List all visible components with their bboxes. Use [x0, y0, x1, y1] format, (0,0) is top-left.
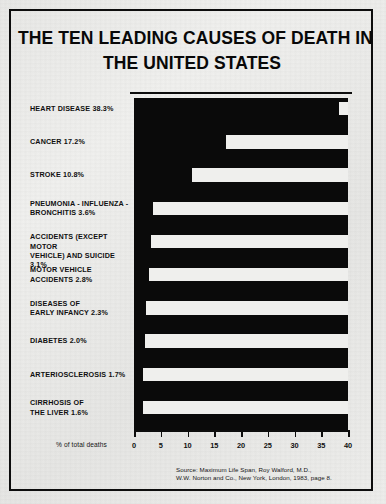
category-label-line: ARTERIOSCLEROSIS 1.7% — [30, 370, 130, 379]
category-label: DISEASES OFEARLY INFANCY 2.3% — [30, 299, 130, 318]
chart-page: THE TEN LEADING CAUSES OF DEATH IN THE U… — [0, 0, 386, 504]
x-axis-tick — [348, 430, 350, 437]
category-label-line: ACCIDENTS 2.8% — [30, 275, 130, 284]
x-axis-tick-label: 5 — [149, 441, 173, 450]
bar — [226, 135, 348, 148]
category-label: STROKE 10.8% — [30, 170, 130, 179]
bar — [145, 334, 348, 347]
category-label-line: STROKE 10.8% — [30, 170, 130, 179]
category-label-line: HEART DISEASE 38.3% — [30, 104, 130, 113]
source-line-2: W.W. Norton and Co., New York, London, 1… — [176, 474, 366, 482]
x-axis-tick-label: 30 — [283, 441, 307, 450]
bar — [339, 102, 348, 115]
bar — [149, 268, 348, 281]
category-label-line: CANCER 17.2% — [30, 137, 130, 146]
title-line-2: THE UNITED STATES — [18, 51, 366, 76]
chart-title: THE TEN LEADING CAUSES OF DEATH IN THE U… — [18, 26, 366, 76]
x-axis-tick-label: 20 — [229, 441, 253, 450]
title-divider — [130, 92, 352, 94]
x-axis-tick-label: 25 — [256, 441, 280, 450]
title-line-1: THE TEN LEADING CAUSES OF DEATH IN — [18, 26, 366, 51]
x-axis-label: % of total deaths — [56, 441, 107, 448]
x-axis-tick — [268, 430, 270, 437]
category-label: MOTOR VEHICLEACCIDENTS 2.8% — [30, 265, 130, 284]
category-label: ARTERIOSCLEROSIS 1.7% — [30, 370, 130, 379]
bar — [192, 168, 348, 181]
x-axis-tick — [241, 430, 243, 437]
source-line-1: Source: Maximum Life Span, Roy Walford, … — [176, 466, 366, 474]
bar — [143, 368, 348, 381]
category-label: CANCER 17.2% — [30, 137, 130, 146]
category-label-line: CIRRHOSIS OF — [30, 398, 130, 407]
category-label: DIABETES 2.0% — [30, 336, 130, 345]
x-axis-tick — [161, 430, 163, 437]
x-axis-tick — [188, 430, 190, 437]
category-label-line: THE LIVER 1.6% — [30, 408, 130, 417]
category-label-line: MOTOR VEHICLE — [30, 265, 130, 274]
x-axis-tick — [295, 430, 297, 437]
category-label-line: DIABETES 2.0% — [30, 336, 130, 345]
x-axis-tick-label: 0 — [122, 441, 146, 450]
category-label-line: BRONCHITIS 3.6% — [30, 208, 130, 217]
bar — [146, 301, 348, 314]
plot-area — [134, 98, 348, 430]
bar — [143, 401, 348, 414]
bar — [151, 235, 348, 248]
bar — [153, 202, 348, 215]
x-axis-tick-label: 35 — [309, 441, 333, 450]
x-axis-tick-label: 40 — [336, 441, 360, 450]
x-axis-tick-label: 15 — [202, 441, 226, 450]
category-label-line: PNEUMONIA - INFLUENZA - — [30, 199, 130, 208]
x-axis-tick — [134, 430, 136, 437]
category-label-line: DISEASES OF — [30, 299, 130, 308]
category-label: PNEUMONIA - INFLUENZA -BRONCHITIS 3.6% — [30, 199, 130, 218]
category-label-line: ACCIDENTS (EXCEPT MOTOR — [30, 232, 130, 251]
x-axis-tick-label: 10 — [176, 441, 200, 450]
category-label: CIRRHOSIS OFTHE LIVER 1.6% — [30, 398, 130, 417]
source-citation: Source: Maximum Life Span, Roy Walford, … — [176, 466, 366, 483]
category-label: ACCIDENTS (EXCEPT MOTORVEHICLE) AND SUIC… — [30, 232, 130, 270]
category-label: HEART DISEASE 38.3% — [30, 104, 130, 113]
x-axis-tick — [214, 430, 216, 437]
x-axis-tick — [321, 430, 323, 437]
category-label-line: EARLY INFANCY 2.3% — [30, 308, 130, 317]
